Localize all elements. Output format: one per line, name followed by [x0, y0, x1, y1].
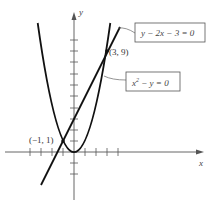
parabola-callout-leader — [104, 76, 126, 80]
point-label-3-9: (3, 9) — [109, 47, 129, 57]
parabola-equation-rest: − y = 0 — [139, 78, 169, 88]
y-axis — [70, 12, 78, 200]
line-equation-callout: y − 2x − 3 = 0 — [135, 23, 205, 42]
x-axis-arrow-icon — [196, 150, 204, 155]
graph-figure: (3, 9) (−1, 1) y x y − 2x − 3 = 0 x2 − y… — [0, 0, 218, 214]
point-label-neg1-1: (−1, 1) — [29, 135, 54, 145]
parabola-equation-callout: x2 − y = 0 — [126, 72, 180, 91]
intersection-point-neg1-1 — [61, 139, 65, 143]
x-axis — [5, 148, 204, 156]
y-axis-label: y — [78, 7, 83, 17]
line-callout-leader — [118, 28, 135, 33]
x-axis-label: x — [198, 158, 203, 168]
line-equation-text: y − 2x − 3 = 0 — [140, 28, 195, 38]
y-axis-arrow-icon — [72, 12, 77, 20]
